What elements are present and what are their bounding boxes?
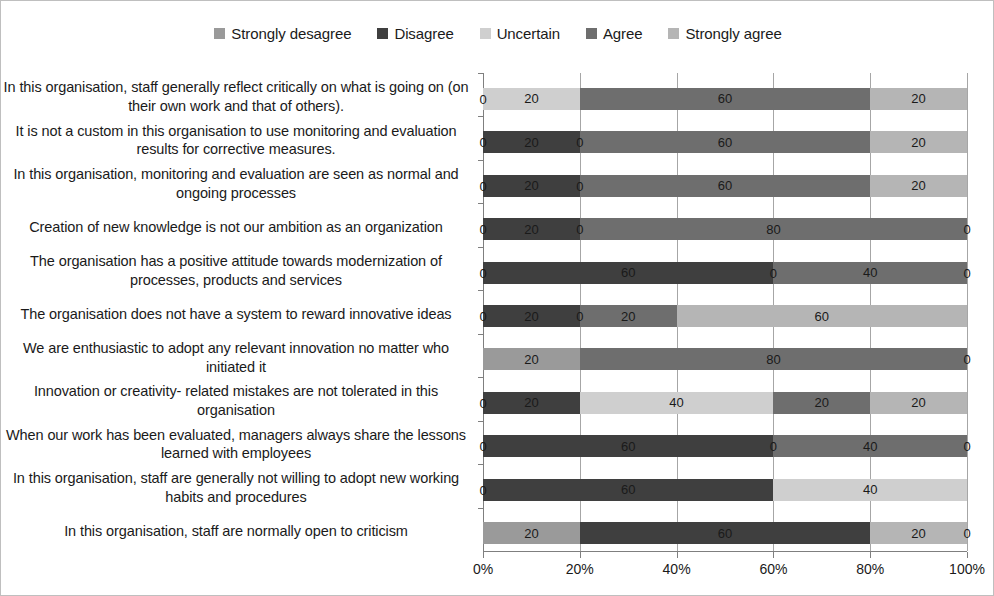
bar-segment-label: 40 [669, 396, 683, 409]
bar-segment-label: 20 [911, 136, 925, 149]
stacked-bar[interactable]: 02006020 [483, 131, 967, 153]
bar-segment-label: 60 [718, 92, 732, 105]
bar-segment[interactable]: 20 [483, 305, 580, 327]
category-tick [478, 464, 483, 465]
bar-zero-label: 0 [963, 223, 970, 236]
legend-item[interactable]: Uncertain [480, 25, 560, 42]
bar-end-zero-label: 0 [963, 527, 970, 540]
bar-segment-label: 20 [524, 179, 538, 192]
bar-segment[interactable]: 20 [870, 522, 967, 544]
bar-segment[interactable]: 60 [580, 175, 870, 197]
bar-segment[interactable]: 20 [483, 88, 580, 110]
bar-segment[interactable]: 40 [773, 479, 967, 501]
category-tick [478, 160, 483, 161]
x-axis-tick-label: 80% [856, 561, 884, 577]
x-axis-tick-label: 100% [949, 561, 985, 577]
bar-rows: 0206020020060200200602002008000600400020… [483, 73, 967, 551]
bar-segment-label: 60 [621, 440, 635, 453]
stacked-bar[interactable]: 0600400 [483, 435, 967, 457]
bar-segment-label: 80 [766, 353, 780, 366]
bar-segment[interactable]: 60 [483, 479, 773, 501]
bar-segment[interactable]: 40 [773, 435, 967, 457]
bar-segment[interactable]: 20 [483, 175, 580, 197]
stacked-bar[interactable]: 20800 [483, 348, 967, 370]
category-label: The organisation does not have a system … [1, 305, 471, 324]
bar-segment[interactable]: 60 [580, 88, 870, 110]
legend-item[interactable]: Strongly agree [668, 25, 781, 42]
bar-segment[interactable]: 80 [580, 348, 967, 370]
bar-segment-label: 20 [911, 527, 925, 540]
bar-segment-label: 60 [621, 483, 635, 496]
x-axis-tick [580, 552, 581, 558]
x-axis-tick-label: 20% [566, 561, 594, 577]
bar-segment-label: 20 [911, 92, 925, 105]
x-axis-tick-label: 40% [663, 561, 691, 577]
x-axis-tick-label: 0% [473, 561, 493, 577]
x-axis-ticks [483, 552, 967, 558]
bar-segment-label: 80 [766, 223, 780, 236]
bar-segment[interactable]: 60 [580, 522, 870, 544]
x-axis-tick-label: 60% [759, 561, 787, 577]
category-label: The organisation has a positive attitude… [1, 252, 471, 289]
bar-segment-label: 40 [863, 266, 877, 279]
bar-segment[interactable]: 20 [483, 131, 580, 153]
bar-zero-label: 0 [479, 266, 486, 279]
legend-item-label: Strongly desagree [231, 25, 351, 42]
bar-segment[interactable]: 20 [870, 131, 967, 153]
bar-segment[interactable]: 20 [580, 305, 677, 327]
bar-segment-label: 20 [524, 527, 538, 540]
stacked-bar[interactable]: 2060200 [483, 522, 967, 544]
category-tick [478, 203, 483, 204]
stacked-bar[interactable]: 02006020 [483, 175, 967, 197]
bar-segment[interactable]: 80 [580, 218, 967, 240]
bar-segment[interactable]: 20 [483, 218, 580, 240]
bar-segment[interactable]: 20 [870, 392, 967, 414]
stacked-bar[interactable]: 02002060 [483, 305, 967, 327]
bar-segment[interactable]: 20 [773, 392, 870, 414]
bar-segment[interactable]: 20 [483, 392, 580, 414]
category-tick [478, 116, 483, 117]
bar-zero-label: 0 [963, 440, 970, 453]
category-tick [478, 334, 483, 335]
bar-segment[interactable]: 40 [580, 392, 774, 414]
x-axis-tick [773, 552, 774, 558]
bar-segment[interactable]: 20 [870, 175, 967, 197]
chart-legend: Strongly desagreeDisagreeUncertainAgreeS… [1, 25, 994, 42]
bar-segment-label: 40 [863, 440, 877, 453]
bar-segment-label: 20 [524, 310, 538, 323]
category-tick [478, 247, 483, 248]
bar-segment-label: 60 [621, 266, 635, 279]
legend-item-label: Disagree [394, 25, 453, 42]
bar-zero-label: 0 [770, 440, 777, 453]
legend-swatch-icon [480, 28, 491, 39]
bar-segment[interactable]: 60 [580, 131, 870, 153]
category-label: In this organisation, monitoring and eva… [1, 165, 471, 202]
bar-segment[interactable]: 20 [870, 88, 967, 110]
legend-item[interactable]: Disagree [377, 25, 453, 42]
legend-item[interactable]: Strongly desagree [214, 25, 351, 42]
stacked-bar[interactable]: 0206020 [483, 88, 967, 110]
bar-segment[interactable]: 60 [483, 435, 773, 457]
bar-segment-label: 20 [524, 136, 538, 149]
x-axis-tick [870, 552, 871, 558]
bar-zero-label: 0 [963, 266, 970, 279]
stacked-bar[interactable]: 0200800 [483, 218, 967, 240]
bar-zero-label: 0 [576, 310, 583, 323]
bar-segment[interactable]: 40 [773, 262, 967, 284]
bar-segment[interactable]: 60 [483, 262, 773, 284]
stacked-bar[interactable]: 06040 [483, 479, 967, 501]
bar-segment[interactable]: 60 [677, 305, 967, 327]
bar-segment-label: 60 [815, 310, 829, 323]
bar-segment-label: 40 [863, 483, 877, 496]
legend-swatch-icon [214, 28, 225, 39]
legend-item[interactable]: Agree [586, 25, 643, 42]
bar-zero-label: 0 [479, 223, 486, 236]
bar-segment[interactable]: 20 [483, 348, 580, 370]
category-tick [478, 508, 483, 509]
bar-zero-label: 0 [576, 223, 583, 236]
legend-swatch-icon [586, 28, 597, 39]
stacked-bar[interactable]: 020402020 [483, 392, 967, 414]
bar-segment[interactable]: 20 [483, 522, 580, 544]
stacked-bar[interactable]: 0600400 [483, 262, 967, 284]
bar-segment-label: 60 [718, 527, 732, 540]
